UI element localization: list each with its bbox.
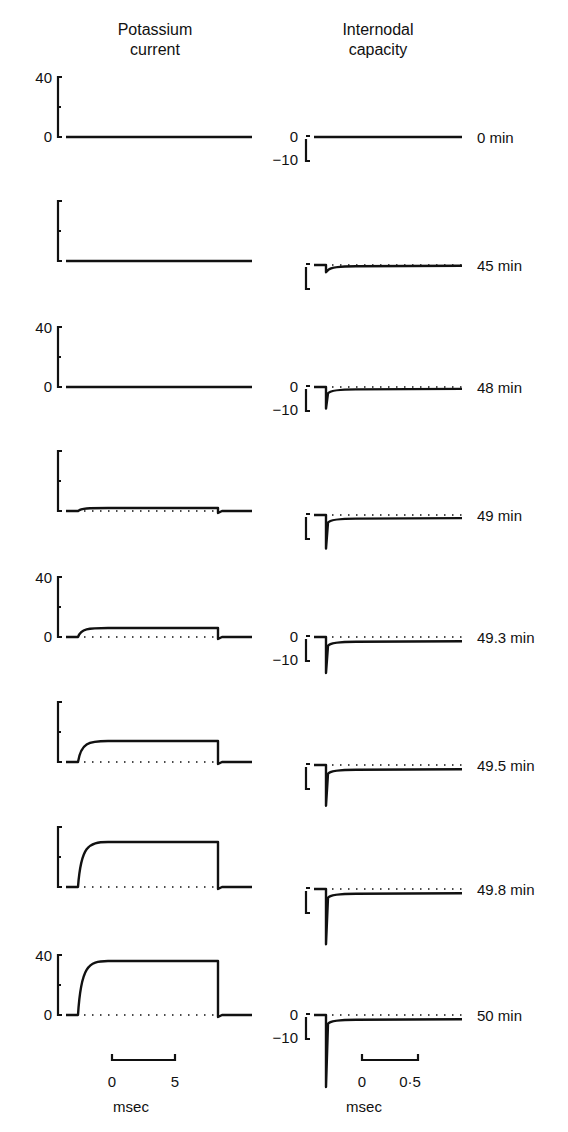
scale-bar-start-label: 0 (358, 1073, 366, 1090)
capacity-scale-bracket (306, 386, 310, 411)
current-scale-bracket (58, 451, 62, 511)
time-label: 0 min (477, 129, 514, 146)
potassium-current-trace (66, 628, 252, 639)
axis-label-40: 40 (35, 569, 52, 586)
time-label: 45 min (477, 257, 522, 274)
internodal-capacity-trace (314, 889, 462, 944)
capacity-scale-bracket (306, 264, 310, 289)
scale-bar-end-label: 5 (171, 1073, 179, 1090)
axis-label-40: 40 (35, 69, 52, 86)
right-time-scale-bar: 00·5msec (346, 1054, 421, 1115)
axis-label-40: 40 (35, 319, 52, 336)
axis-label-minus10: −10 (273, 1029, 298, 1046)
trace-row: 49 min (58, 451, 522, 549)
capacity-scale-bracket (306, 636, 310, 661)
axis-label-0: 0 (44, 378, 52, 395)
capacity-scale-bracket (306, 1014, 310, 1039)
capacity-scale-bracket (306, 136, 310, 161)
current-scale-bracket (58, 77, 62, 137)
time-label: 49.3 min (477, 629, 535, 646)
current-scale-bracket (58, 327, 62, 387)
figure-canvas: 4000−100 min45 min4000−1048 min49 min400… (0, 0, 568, 1132)
scale-bar-unit-label: msec (113, 1098, 149, 1115)
current-scale-bracket (58, 577, 62, 637)
current-scale-bracket (58, 702, 62, 762)
trace-row: 49.8 min (58, 827, 535, 944)
current-scale-bracket (58, 201, 62, 261)
scale-bar-end-label: 0·5 (399, 1073, 421, 1090)
potassium-current-trace (66, 961, 252, 1017)
trace-row: 4000−100 min (35, 69, 513, 168)
time-label: 49.5 min (477, 757, 535, 774)
axis-label-0: 0 (44, 1006, 52, 1023)
axis-label-0: 0 (290, 1006, 298, 1023)
time-label: 48 min (477, 379, 522, 396)
time-label: 49 min (477, 507, 522, 524)
trace-row: 4000−1050 min (35, 947, 522, 1087)
internodal-capacity-trace (314, 265, 462, 272)
axis-label-40: 40 (35, 947, 52, 964)
axis-label-0: 0 (290, 628, 298, 645)
scale-bar-start-label: 0 (108, 1073, 116, 1090)
axis-label-0: 0 (44, 628, 52, 645)
potassium-current-trace (66, 508, 252, 513)
axis-label-minus10: −10 (273, 151, 298, 168)
internodal-capacity-trace (314, 515, 462, 549)
trace-row: 4000−1049.3 min (35, 569, 534, 673)
axis-label-minus10: −10 (273, 401, 298, 418)
capacity-scale-bracket (306, 514, 310, 539)
capacity-scale-bracket (306, 764, 310, 789)
capacity-scale-bracket (306, 888, 310, 913)
axis-label-minus10: −10 (273, 651, 298, 668)
scale-bar-unit-label: msec (346, 1098, 382, 1115)
axis-label-0: 0 (44, 128, 52, 145)
trace-row: 45 min (58, 201, 522, 289)
trace-row: 4000−1048 min (35, 319, 522, 418)
internodal-capacity-trace (314, 1015, 462, 1087)
current-scale-bracket (58, 827, 62, 887)
internodal-capacity-trace (314, 387, 462, 409)
time-label: 50 min (477, 1007, 522, 1024)
left-time-scale-bar: 05msec (108, 1054, 179, 1115)
potassium-current-trace (66, 741, 252, 764)
axis-label-0: 0 (290, 378, 298, 395)
internodal-capacity-trace (314, 765, 462, 806)
internodal-capacity-trace (314, 637, 462, 673)
time-label: 49.8 min (477, 881, 535, 898)
potassium-current-trace (66, 842, 252, 889)
current-scale-bracket (58, 955, 62, 1015)
trace-row: 49.5 min (58, 702, 535, 806)
axis-label-0: 0 (290, 128, 298, 145)
